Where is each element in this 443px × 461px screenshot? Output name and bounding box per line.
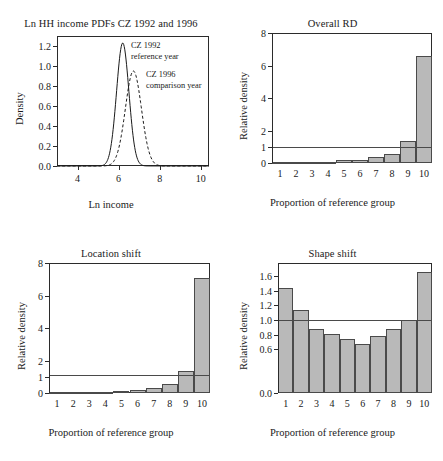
bar	[400, 141, 416, 163]
axis-label-x-overall: Proportion of reference group	[222, 197, 443, 208]
bar	[368, 157, 384, 163]
y-axis-line	[272, 33, 273, 163]
x-tick-label: 8	[167, 398, 172, 409]
x-tick-label: 4	[329, 398, 334, 409]
y-tick-mark	[53, 166, 57, 167]
bar	[65, 392, 81, 394]
x-tick-label: 6	[116, 173, 121, 184]
y-tick-mark	[268, 163, 272, 164]
x-tick-label: 9	[183, 398, 188, 409]
y-tick-label: 0.0	[252, 388, 272, 399]
annotation-cz1996-line1: CZ 1996	[146, 69, 202, 80]
bar	[370, 336, 385, 393]
y-tick-label: 8	[33, 258, 43, 269]
bar	[81, 392, 97, 394]
pdf-curves-svg	[0, 0, 222, 230]
y-tick-label: 1	[33, 371, 43, 382]
x-tick-label: 4	[75, 173, 80, 184]
x-tick-label: 3	[87, 398, 92, 409]
y-tick-label: 0.2	[29, 141, 51, 152]
annotation-cz1992: CZ 1992 reference year	[131, 40, 179, 62]
y-tick-label: 1.4	[252, 285, 272, 296]
x-tick-label: 4	[103, 398, 108, 409]
y-tick-label: 1.0	[29, 61, 51, 72]
y-tick-mark	[274, 393, 278, 394]
x-tick-label: 8	[390, 168, 395, 179]
x-tick-mark	[78, 166, 79, 170]
x-tick-label: 7	[376, 398, 381, 409]
x-tick-label: 1	[283, 398, 288, 409]
axis-label-x-pdf: Ln income	[0, 199, 222, 210]
y-tick-mark	[53, 46, 57, 47]
bar	[386, 329, 401, 393]
y-tick-label: 0.8	[29, 81, 51, 92]
y-tick-label: 0	[256, 158, 266, 169]
bar	[278, 288, 293, 393]
y-tick-label: 8	[256, 28, 266, 39]
bar	[384, 154, 400, 163]
axis-label-y-overall: Relative density	[238, 72, 249, 140]
annotation-cz1992-line1: CZ 1992	[131, 40, 179, 51]
y-tick-mark	[53, 126, 57, 127]
bar	[178, 371, 194, 393]
x-tick-mark	[119, 166, 120, 170]
panel-ln-hh-income-pdfs: Ln HH income PDFs CZ 1992 and 1996 Densi…	[0, 0, 222, 230]
x-tick-mark	[201, 166, 202, 170]
bar	[320, 162, 336, 164]
x-tick-label: 5	[342, 168, 347, 179]
y-tick-label: 0	[33, 388, 43, 399]
bar	[352, 160, 368, 163]
axis-label-y-shape: Relative density	[238, 302, 249, 370]
x-tick-label: 6	[360, 398, 365, 409]
x-tick-label: 8	[157, 173, 162, 184]
x-tick-label: 10	[197, 398, 207, 409]
y-tick-mark	[53, 106, 57, 107]
x-tick-label: 7	[151, 398, 156, 409]
y-tick-label: 0.6	[29, 101, 51, 112]
y-tick-label: 1.0	[252, 314, 272, 325]
y-tick-label: 2	[33, 355, 43, 366]
x-tick-label: 2	[294, 168, 299, 179]
x-tick-label: 6	[358, 168, 363, 179]
bar	[288, 162, 304, 164]
y-tick-label: 0.8	[252, 329, 272, 340]
y-tick-label: 4	[256, 93, 266, 104]
annotation-cz1996: CZ 1996 comparison year	[146, 69, 202, 91]
y-axis-line	[49, 263, 50, 393]
x-tick-label: 9	[406, 168, 411, 179]
panel-location-shift: Location shift Relative density 012468 1…	[0, 230, 222, 461]
x-tick-label: 10	[419, 168, 429, 179]
x-tick-mark	[160, 166, 161, 170]
reference-line	[49, 375, 210, 376]
x-tick-label: 2	[71, 398, 76, 409]
x-tick-label: 8	[391, 398, 396, 409]
x-tick-label: 5	[119, 398, 124, 409]
x-tick-label: 10	[196, 173, 206, 184]
bar	[336, 160, 352, 163]
annotation-cz1992-line2: reference year	[131, 51, 179, 62]
x-tick-label: 5	[345, 398, 350, 409]
y-tick-label: 1.2	[252, 300, 272, 311]
y-tick-label: 0.4	[29, 121, 51, 132]
y-tick-label: 1	[256, 141, 266, 152]
axis-label-x-location: Proportion of reference group	[0, 427, 222, 438]
bar	[417, 272, 432, 393]
y-tick-label: 0.0	[29, 161, 51, 172]
y-tick-label: 0.6	[252, 344, 272, 355]
bar	[304, 162, 320, 164]
x-tick-label: 4	[326, 168, 331, 179]
y-tick-label: 1.6	[252, 271, 272, 282]
x-tick-label: 3	[310, 168, 315, 179]
reference-line	[278, 320, 432, 321]
panel-overall-rd: Overall RD Relative density 012468 12345…	[222, 0, 443, 230]
y-tick-mark	[53, 66, 57, 67]
x-tick-label: 2	[299, 398, 304, 409]
bar	[355, 344, 370, 393]
y-tick-label: 1.2	[29, 41, 51, 52]
y-tick-mark	[53, 146, 57, 147]
y-tick-label: 2	[256, 125, 266, 136]
x-tick-label: 9	[406, 398, 411, 409]
axis-label-x-shape: Proportion of reference group	[222, 427, 443, 438]
annotation-cz1996-line2: comparison year	[146, 80, 202, 91]
bar	[309, 329, 324, 393]
